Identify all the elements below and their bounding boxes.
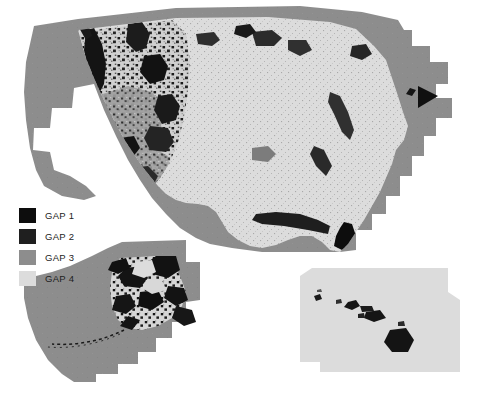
legend-swatch-gap-2: [19, 229, 36, 244]
gap-legend: GAP 1 GAP 2 GAP 3 GAP 4: [19, 205, 129, 289]
legend-label-gap-1: GAP 1: [45, 208, 74, 223]
legend-item-gap-4: GAP 4: [19, 268, 129, 289]
hawaii-inset-panel: [300, 268, 460, 372]
legend-swatch-gap-4: [19, 271, 36, 286]
legend-swatch-gap-3: [19, 250, 36, 265]
gap-status-map: GAP 1 GAP 2 GAP 3 GAP 4: [0, 0, 477, 400]
legend-item-gap-2: GAP 2: [19, 226, 129, 247]
legend-item-gap-3: GAP 3: [19, 247, 129, 268]
legend-label-gap-2: GAP 2: [45, 229, 74, 244]
legend-item-gap-1: GAP 1: [19, 205, 129, 226]
hawaii-island-molokai: [360, 306, 374, 312]
legend-label-gap-3: GAP 3: [45, 250, 74, 265]
map-canvas: [0, 0, 477, 400]
legend-swatch-gap-1: [19, 208, 36, 223]
legend-label-gap-4: GAP 4: [45, 271, 74, 286]
